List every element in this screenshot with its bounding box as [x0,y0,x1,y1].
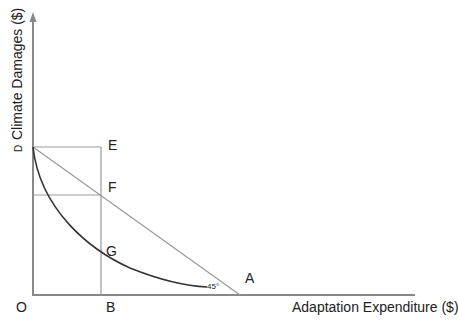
y-axis-arrow-icon [30,12,37,22]
label-b: B [106,299,115,315]
label-g: G [106,243,117,259]
line-d-a-diagonal [33,147,240,295]
y-axis-label: Climate Damages ($) [9,8,25,140]
label-a: A [245,270,255,286]
label-e: E [108,137,117,153]
label-f: F [108,179,117,195]
label-o: O [16,299,27,315]
x-axis-label: Adaptation Expenditure ($) [292,299,458,315]
label-d: D [13,145,24,152]
angle-label: 45° [207,282,219,291]
damage-curve [33,147,207,287]
diagram-canvas: Climate Damages ($) D E F G A 45° O B Ad… [0,0,458,326]
